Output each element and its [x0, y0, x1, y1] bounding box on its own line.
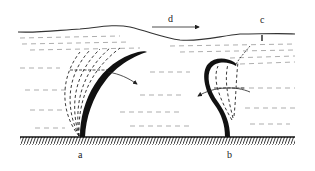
plant-b-stem: [204, 58, 236, 137]
water-surface: [18, 26, 295, 41]
water-flow-lines: [20, 36, 295, 128]
label-d: d: [168, 14, 173, 24]
label-a: a: [78, 150, 82, 160]
plant-a-arrow: [108, 72, 137, 84]
label-b: b: [227, 150, 232, 160]
ground-hatching: [20, 137, 295, 145]
plant-b-tip-filament: [236, 46, 250, 64]
plant-a-stem: [80, 51, 147, 137]
plant-b-arrow: [198, 88, 250, 96]
plant-current-diagram: [0, 0, 315, 171]
label-c: c: [260, 15, 264, 25]
